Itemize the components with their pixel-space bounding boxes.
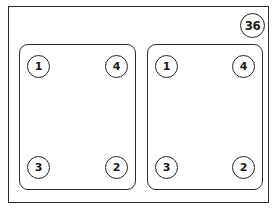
bolt-marker-bottom-left: 3 — [155, 156, 178, 179]
bolt-marker-top-right: 4 — [232, 55, 255, 78]
bolt-marker-top-left: 1 — [27, 55, 50, 78]
bolt-marker-bottom-right: 2 — [105, 156, 128, 179]
figure-number-badge: 36 — [240, 13, 265, 38]
bolt-marker-bottom-left: 3 — [27, 156, 50, 179]
bolt-marker-bottom-right: 2 — [232, 156, 255, 179]
right-panel: 1 4 3 2 — [147, 44, 263, 190]
bolt-marker-top-right: 4 — [105, 55, 128, 78]
left-panel: 1 4 3 2 — [19, 44, 136, 190]
bolt-marker-top-left: 1 — [155, 55, 178, 78]
